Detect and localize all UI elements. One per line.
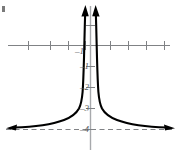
curve-left-top-arrowhead — [81, 5, 88, 17]
curve-left-branch — [14, 12, 85, 128]
x-axis-label-neg-1: –1 — [75, 47, 84, 56]
function-graph-figure: –1 –1 –2 –3 –4 — [0, 0, 178, 152]
y-axis-label-neg-4: –4 — [80, 125, 89, 134]
curve-right-top-arrowhead — [92, 5, 99, 17]
y-axis-label-neg-3: –3 — [80, 104, 89, 113]
graph-canvas — [0, 0, 178, 152]
y-axis-label-neg-2: –2 — [80, 83, 89, 92]
curve-right-branch — [96, 12, 167, 128]
y-axis-label-neg-1: –1 — [80, 62, 89, 71]
